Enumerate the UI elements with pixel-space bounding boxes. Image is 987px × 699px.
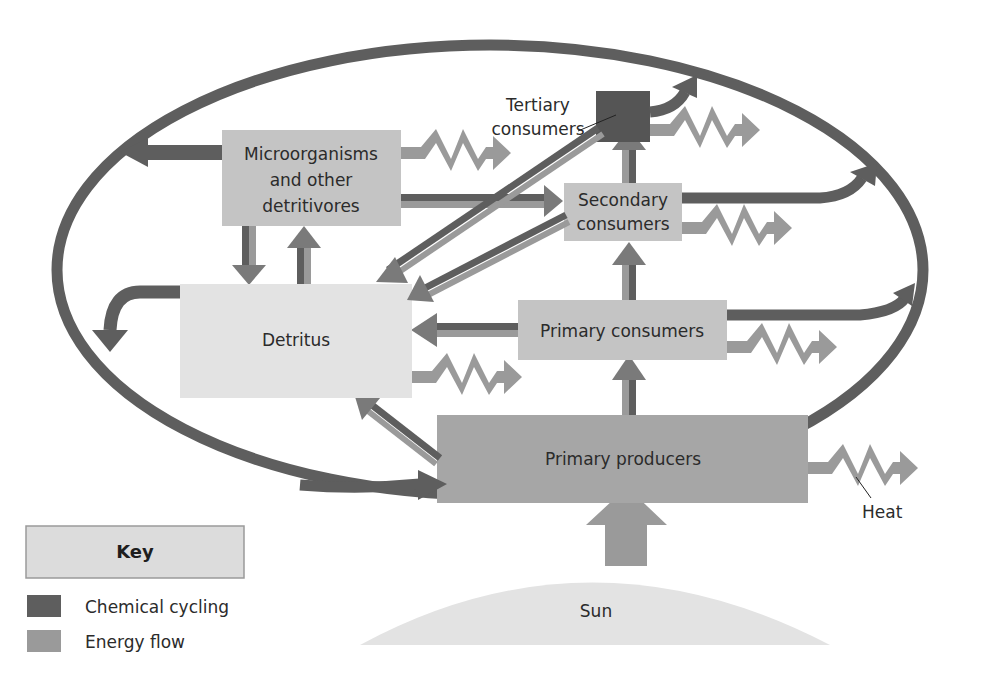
detritus-label: Detritus (262, 330, 330, 350)
secondary-consumers-label-2: consumers (576, 214, 669, 234)
microorganisms-label-2: and other (270, 170, 353, 190)
primary-producers-label: Primary producers (545, 449, 701, 469)
legend-swatch-energy (27, 630, 61, 652)
legend: Key Chemical cycling Energy flow (26, 526, 244, 652)
ecosystem-diagram: Sun Primary producers Heat Primary consu… (0, 0, 987, 699)
microorganisms-label-3: detritivores (262, 196, 360, 216)
tertiary-consumers-label-2: consumers (491, 119, 584, 139)
legend-label-energy: Energy flow (85, 632, 185, 652)
legend-title: Key (116, 541, 154, 562)
microorganisms-label-1: Microorganisms (244, 144, 378, 164)
legend-label-chemical: Chemical cycling (85, 597, 229, 617)
cycle-to-producers-arrow (300, 484, 420, 487)
tertiary-consumers-box (596, 91, 650, 142)
sun-label: Sun (580, 601, 612, 621)
primary-consumers-label: Primary consumers (540, 321, 704, 341)
legend-swatch-chemical (27, 595, 61, 617)
tertiary-consumers-label-1: Tertiary (505, 95, 570, 115)
heat-label: Heat (862, 502, 903, 522)
secondary-consumers-label-1: Secondary (578, 190, 668, 210)
